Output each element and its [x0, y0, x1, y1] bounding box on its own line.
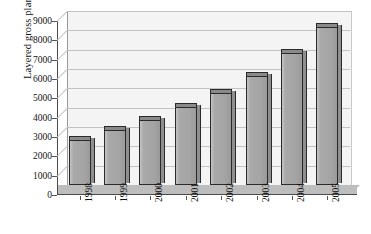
- bar-top-face: [69, 136, 91, 141]
- bar-side-face: [232, 91, 236, 183]
- bar: [281, 52, 303, 185]
- bar-side-face: [161, 118, 165, 184]
- x-axis-tick-label: 1999: [119, 183, 129, 202]
- y-axis-tick-label: 1000: [8, 171, 52, 180]
- bar-front-face: [316, 26, 338, 185]
- bar: [316, 26, 338, 185]
- gridline: [67, 69, 350, 70]
- bar-side-face: [197, 105, 201, 183]
- x-axis-tick-mark: [257, 196, 258, 200]
- y-axis-tick-label: 8000: [8, 36, 52, 45]
- x-axis-tick-mark: [150, 196, 151, 200]
- bar-top-face: [175, 103, 197, 108]
- x-axis-tick-mark: [292, 196, 293, 200]
- x-axis-tick-mark: [186, 196, 187, 200]
- bar-side-face: [268, 74, 272, 183]
- bar-front-face: [104, 129, 126, 185]
- y-axis-tick-label: 9000: [8, 17, 52, 26]
- y-axis-tick-label: 7000: [8, 55, 52, 64]
- y-axis-tick-label: 3000: [8, 133, 52, 142]
- x-axis-tick-label: 2001: [190, 183, 200, 202]
- x-axis-line: [57, 194, 357, 195]
- bar-front-face: [210, 92, 232, 185]
- x-axis-tick-mark: [115, 196, 116, 200]
- bar-front-face: [175, 106, 197, 185]
- x-axis-tick-label: 2003: [261, 183, 271, 202]
- bar-top-face: [316, 23, 338, 28]
- bar-top-face: [246, 72, 268, 77]
- plot-area: [57, 11, 357, 195]
- bar-front-face: [281, 52, 303, 185]
- x-axis-tick-mark: [221, 196, 222, 200]
- bar: [139, 119, 161, 186]
- gridline: [67, 30, 350, 31]
- bar: [175, 106, 197, 185]
- bar-side-face: [126, 128, 130, 183]
- y-axis-tick-label: 2000: [8, 152, 52, 161]
- x-axis-tick-label: 2005: [331, 183, 341, 202]
- x-axis-tick-label: 1998: [84, 183, 94, 202]
- bar-chart: Layered gross plant (000s) 0100020003000…: [0, 0, 371, 234]
- y-axis-tick-label: 6000: [8, 75, 52, 84]
- gridline: [67, 11, 350, 12]
- bar-side-face: [91, 138, 95, 183]
- bar-top-face: [104, 126, 126, 131]
- bar-front-face: [139, 119, 161, 186]
- bar-top-face: [281, 49, 303, 54]
- bar-front-face: [69, 139, 91, 185]
- left-axis-line: [57, 21, 58, 195]
- x-axis-tick-label: 2004: [296, 183, 306, 202]
- bar-top-face: [210, 89, 232, 94]
- gridline: [67, 108, 350, 109]
- bar-top-face: [139, 116, 161, 121]
- bar: [69, 139, 91, 185]
- x-axis-tick-mark: [80, 196, 81, 200]
- bar: [246, 75, 268, 185]
- y-axis-tick-label: 4000: [8, 113, 52, 122]
- gridline: [67, 50, 350, 51]
- bar-front-face: [246, 75, 268, 185]
- bar: [210, 92, 232, 185]
- gridline: [67, 88, 350, 89]
- y-axis-tick-label: 0: [8, 191, 52, 200]
- x-axis-tick-mark: [327, 196, 328, 200]
- x-axis-tick-label: 2000: [154, 183, 164, 202]
- x-axis-tick-label: 2002: [225, 183, 235, 202]
- y-axis: Layered gross plant (000s) 0100020003000…: [0, 0, 52, 234]
- bar: [104, 129, 126, 185]
- y-axis-tick-mark: [52, 195, 57, 196]
- bar-side-face: [338, 25, 342, 183]
- bar-side-face: [303, 51, 307, 183]
- y-axis-tick-label: 5000: [8, 94, 52, 103]
